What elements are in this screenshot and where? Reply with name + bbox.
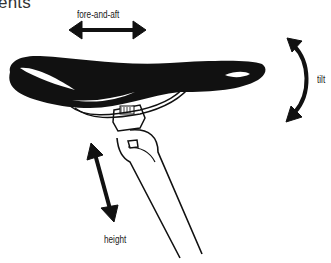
tilt-arrow-icon — [286, 38, 307, 122]
height-label: height — [104, 234, 126, 245]
fore-aft-arrow-icon — [69, 21, 146, 39]
height-arrow-icon — [87, 143, 118, 222]
fore-aft-label: fore-and-aft — [77, 9, 119, 20]
saddle — [9, 56, 265, 108]
saddle-diagram — [0, 0, 331, 263]
tilt-label: tilt — [317, 74, 325, 85]
seatpost — [117, 130, 202, 258]
